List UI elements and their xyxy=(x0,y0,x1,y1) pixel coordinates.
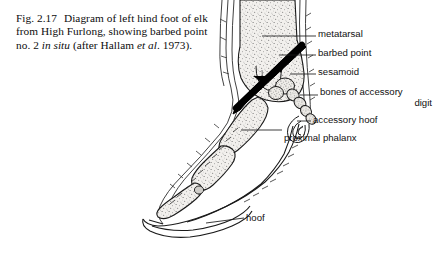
distal-phalanx xyxy=(157,183,204,219)
elk-hind-foot-diagram xyxy=(0,0,437,259)
label-sesamoid: sesamoid xyxy=(318,66,359,77)
label-accessory-digit-bones: bones of accessory digit xyxy=(320,86,432,108)
label-accessory-digit-bones-line2: digit xyxy=(320,97,432,108)
label-barbed-point: barbed point xyxy=(318,47,371,58)
label-accessory-hoof: accessory hoof xyxy=(313,114,378,125)
label-metatarsal: metatarsal xyxy=(318,28,363,39)
label-proximal-phalanx: proximal phalanx xyxy=(284,132,357,143)
rear-hair-ticks xyxy=(306,13,315,100)
figure-container: Fig. 2.17Diagram of left hind foot of el… xyxy=(0,0,437,259)
label-hoof: hoof xyxy=(246,212,265,223)
label-accessory-digit-bones-line1: bones of accessory xyxy=(320,86,403,97)
